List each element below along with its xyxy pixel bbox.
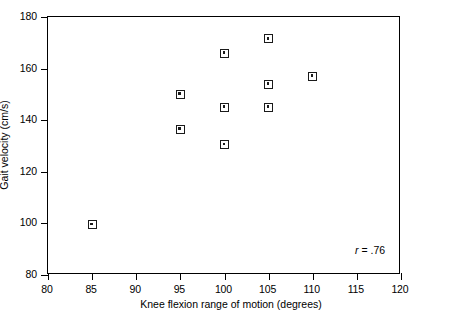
x-tick-120 bbox=[401, 273, 402, 280]
x-tick-label-80: 80 bbox=[41, 283, 52, 295]
x-tick-105 bbox=[269, 273, 270, 280]
data-point bbox=[88, 220, 97, 229]
y-tick-80 bbox=[41, 275, 48, 276]
y-axis-title: Gait velocity (cm/s) bbox=[0, 100, 10, 189]
plot-area: r = .76 bbox=[47, 16, 400, 274]
scatter-plot-figure: Gait velocity (cm/s) Knee flexion range … bbox=[0, 0, 462, 319]
y-tick-label-80: 80 bbox=[26, 268, 37, 280]
y-tick-160 bbox=[41, 69, 48, 70]
data-point bbox=[176, 125, 185, 134]
x-tick-80 bbox=[48, 273, 49, 280]
y-tick-120 bbox=[41, 172, 48, 173]
data-point bbox=[176, 90, 185, 99]
data-point bbox=[264, 34, 273, 43]
data-point bbox=[220, 49, 229, 58]
x-tick-label-85: 85 bbox=[85, 283, 96, 295]
x-tick-label-115: 115 bbox=[348, 283, 364, 295]
y-tick-label-160: 160 bbox=[20, 62, 37, 74]
y-tick-label-120: 120 bbox=[20, 165, 37, 177]
x-tick-label-95: 95 bbox=[174, 283, 185, 295]
data-point bbox=[264, 103, 273, 112]
x-tick-95 bbox=[180, 273, 181, 280]
y-tick-140 bbox=[41, 120, 48, 121]
x-tick-label-105: 105 bbox=[259, 283, 276, 295]
data-point bbox=[264, 80, 273, 89]
y-tick-label-100: 100 bbox=[20, 216, 37, 228]
data-point bbox=[308, 72, 317, 81]
y-tick-label-140: 140 bbox=[20, 113, 37, 125]
y-tick-label-180: 180 bbox=[20, 10, 37, 22]
x-tick-110 bbox=[313, 273, 314, 280]
correlation-value: = .76 bbox=[359, 244, 386, 256]
x-tick-115 bbox=[357, 273, 358, 280]
x-axis-title: Knee flexion range of motion (degrees) bbox=[0, 298, 462, 310]
x-tick-label-100: 100 bbox=[215, 283, 232, 295]
x-tick-90 bbox=[136, 273, 137, 280]
data-point bbox=[220, 140, 229, 149]
x-tick-85 bbox=[92, 273, 93, 280]
y-tick-100 bbox=[41, 223, 48, 224]
x-tick-label-90: 90 bbox=[130, 283, 141, 295]
y-tick-180 bbox=[41, 17, 48, 18]
x-tick-label-110: 110 bbox=[304, 283, 320, 295]
data-point bbox=[220, 103, 229, 112]
correlation-annotation: r = .76 bbox=[355, 244, 385, 256]
x-tick-100 bbox=[225, 273, 226, 280]
x-tick-label-120: 120 bbox=[391, 283, 408, 295]
